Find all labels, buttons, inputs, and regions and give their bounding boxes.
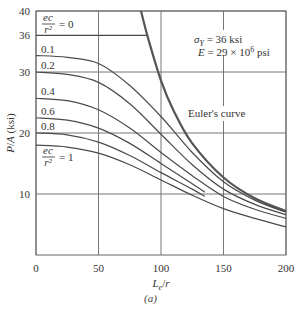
svg-text:r²: r² xyxy=(44,156,52,168)
svg-text:ec: ec xyxy=(43,144,53,156)
y-axis-title: P/A (ksi) xyxy=(4,113,17,154)
x-tick-label: 100 xyxy=(153,262,170,274)
svg-text:ec: ec xyxy=(43,11,53,23)
ec-label-zero: ecr²= 0 xyxy=(42,11,74,35)
svg-text:= 1: = 1 xyxy=(59,151,73,163)
labels: 05010015020010203036400.10.20.40.60.8ecr… xyxy=(4,5,295,290)
curve-label: 0.2 xyxy=(41,59,55,71)
x-tick-label: 50 xyxy=(93,262,105,274)
material-modulus-label: E = 29 × 106 psi xyxy=(197,45,270,58)
y-tick-label: 40 xyxy=(19,5,31,17)
y-tick-label: 10 xyxy=(19,188,31,200)
curve-label: 0.6 xyxy=(41,105,55,117)
svg-text:r²: r² xyxy=(44,23,52,35)
x-axis-title: Le/r xyxy=(151,277,170,290)
y-tick-label: 20 xyxy=(19,127,31,139)
x-tick-label: 0 xyxy=(33,262,39,274)
curve-label: 0.1 xyxy=(41,43,55,55)
curve-label: 0.4 xyxy=(41,85,55,97)
x-tick-label: 200 xyxy=(278,262,295,274)
euler-curve-label: Euler's curve xyxy=(188,107,245,119)
svg-text:= 0: = 0 xyxy=(59,18,74,30)
x-tick-label: 150 xyxy=(215,262,232,274)
secant-formula-chart: 05010015020010203036400.10.20.40.60.8ecr… xyxy=(0,0,301,290)
y-tick-label: 30 xyxy=(19,66,31,78)
y-tick-label: 36 xyxy=(19,29,31,41)
curve-label: 0.8 xyxy=(41,120,55,132)
panel-label: (a) xyxy=(0,292,301,304)
secant-curve xyxy=(36,133,205,196)
